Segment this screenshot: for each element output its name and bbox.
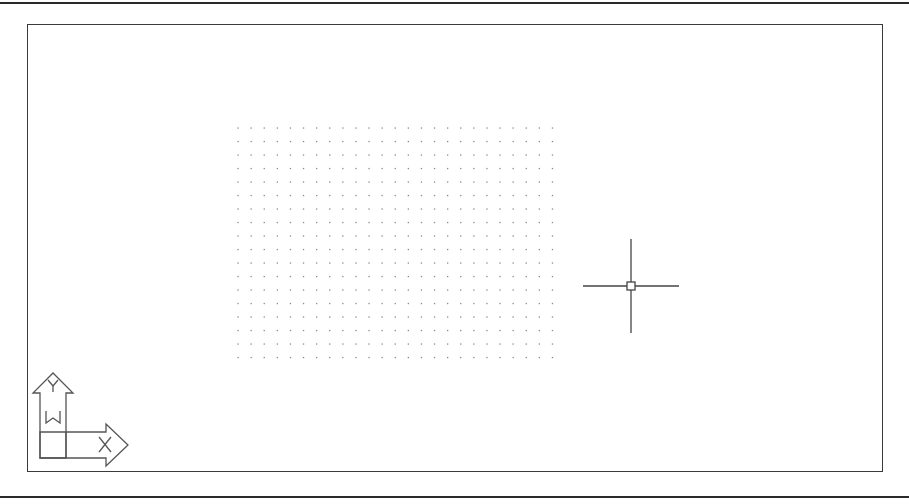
grid-dot: [539, 195, 540, 196]
grid-dot: [460, 289, 461, 290]
grid-dot: [329, 181, 330, 182]
grid-dot: [316, 276, 317, 277]
grid-dot: [434, 208, 435, 209]
grid-dot: [408, 357, 409, 358]
grid-dot: [552, 343, 553, 344]
grid-dot: [329, 141, 330, 142]
grid-dot: [473, 208, 474, 209]
grid-dot: [499, 181, 500, 182]
grid-dot: [460, 276, 461, 277]
grid-dot: [264, 168, 265, 169]
grid-dot: [355, 249, 356, 250]
grid-dot: [342, 357, 343, 358]
ucs-icon: X: [0, 0, 128, 466]
grid-dot: [237, 154, 238, 155]
grid-dot: [552, 181, 553, 182]
grid-dot: [368, 303, 369, 304]
grid-dot: [408, 181, 409, 182]
grid-dot: [342, 195, 343, 196]
grid-dot: [264, 235, 265, 236]
grid-dot: [251, 127, 252, 128]
grid-dot: [447, 181, 448, 182]
grid-dot: [316, 316, 317, 317]
grid-dot: [526, 154, 527, 155]
grid-dot: [303, 330, 304, 331]
grid-dot: [460, 262, 461, 263]
grid-dot: [447, 343, 448, 344]
grid-dot: [264, 357, 265, 358]
grid-dot: [408, 235, 409, 236]
grid-dot: [290, 303, 291, 304]
grid-dot: [264, 343, 265, 344]
grid-dot: [408, 222, 409, 223]
grid-dot: [486, 222, 487, 223]
grid-dot: [277, 276, 278, 277]
snap-grid: [237, 127, 553, 358]
grid-dot: [382, 154, 383, 155]
grid-dot: [460, 222, 461, 223]
grid-dot: [513, 154, 514, 155]
grid-dot: [552, 262, 553, 263]
grid-dot: [342, 316, 343, 317]
grid-dot: [264, 303, 265, 304]
grid-dot: [290, 316, 291, 317]
grid-dot: [355, 222, 356, 223]
grid-dot: [251, 262, 252, 263]
grid-dot: [473, 330, 474, 331]
grid-dot: [368, 222, 369, 223]
grid-dot: [382, 127, 383, 128]
grid-dot: [499, 208, 500, 209]
grid-dot: [552, 276, 553, 277]
grid-dot: [552, 127, 553, 128]
ucs-world-label: [46, 411, 60, 423]
grid-dot: [552, 168, 553, 169]
grid-dot: [499, 316, 500, 317]
grid-dot: [342, 249, 343, 250]
grid-dot: [513, 141, 514, 142]
grid-dot: [303, 208, 304, 209]
grid-dot: [421, 249, 422, 250]
grid-dot: [237, 195, 238, 196]
grid-dot: [303, 181, 304, 182]
grid-dot: [277, 235, 278, 236]
grid-dot: [526, 141, 527, 142]
grid-dot: [499, 303, 500, 304]
grid-dot: [447, 262, 448, 263]
grid-dot: [316, 168, 317, 169]
ucs-x-label: [99, 437, 111, 452]
grid-dot: [277, 289, 278, 290]
grid-dot: [499, 235, 500, 236]
grid-dot: [237, 330, 238, 331]
grid-dot: [342, 289, 343, 290]
grid-dot: [513, 249, 514, 250]
grid-dot: [499, 289, 500, 290]
grid-dot: [513, 276, 514, 277]
grid-dot: [355, 141, 356, 142]
grid-dot: [237, 235, 238, 236]
grid-dot: [303, 154, 304, 155]
grid-dot: [513, 357, 514, 358]
grid-dot: [316, 289, 317, 290]
grid-dot: [473, 357, 474, 358]
grid-dot: [355, 235, 356, 236]
grid-dot: [355, 127, 356, 128]
grid-dot: [382, 181, 383, 182]
grid-dot: [368, 357, 369, 358]
grid-dot: [395, 127, 396, 128]
grid-dot: [539, 262, 540, 263]
grid-dot: [526, 222, 527, 223]
grid-dot: [264, 262, 265, 263]
grid-dot: [303, 168, 304, 169]
grid-dot: [539, 316, 540, 317]
grid-dot: [539, 276, 540, 277]
drawing-canvas[interactable]: X: [0, 0, 909, 504]
grid-dot: [421, 330, 422, 331]
grid-dot: [316, 262, 317, 263]
grid-dot: [552, 249, 553, 250]
grid-dot: [539, 222, 540, 223]
grid-dot: [329, 249, 330, 250]
grid-dot: [382, 249, 383, 250]
grid-dot: [329, 168, 330, 169]
grid-dot: [408, 316, 409, 317]
grid-dot: [355, 316, 356, 317]
